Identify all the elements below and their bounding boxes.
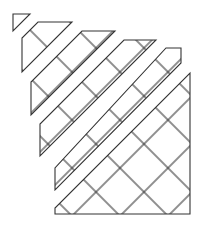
strip-1: [13, 14, 30, 31]
diagram: [0, 0, 201, 230]
